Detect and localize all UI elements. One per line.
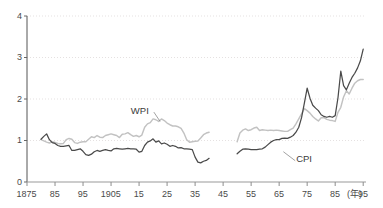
- x-tick-label: 65: [274, 190, 284, 199]
- series-wpi-line: [41, 79, 363, 143]
- y-tick-label: 4: [4, 12, 22, 21]
- y-tick-label: 3: [4, 53, 22, 62]
- x-tick-label: 15: [134, 190, 144, 199]
- x-tick-label: 55: [246, 190, 256, 199]
- chart-plot-area: [0, 0, 383, 208]
- y-tick-label: 2: [4, 95, 22, 104]
- x-tick-label: 95: [78, 190, 88, 199]
- x-tick-label: 45: [218, 190, 228, 199]
- x-tick-label: 75: [302, 190, 312, 199]
- series-cpi-line: [41, 49, 363, 163]
- series-segment: [237, 49, 363, 154]
- x-tick-label: 1875: [17, 190, 37, 199]
- x-tick-label: 1905: [101, 190, 121, 199]
- x-tick-label: 35: [190, 190, 200, 199]
- series-segment: [237, 79, 363, 141]
- annotation-leader-line: [283, 152, 295, 161]
- chart-container: 01234 187585951905152535455565758595 WPI…: [0, 0, 383, 208]
- x-tick-label: 85: [330, 190, 340, 199]
- y-tick-label: 0: [4, 178, 22, 187]
- x-axis-unit-label: (年): [347, 190, 362, 199]
- x-tick-label: 85: [50, 190, 60, 199]
- gridlines: [27, 16, 366, 141]
- series-label-wpi: WPI: [131, 106, 149, 116]
- annotation-leaders: [154, 112, 295, 161]
- x-tick-label: 25: [162, 190, 172, 199]
- y-tick-label: 1: [4, 136, 22, 145]
- series-label-cpi: CPI: [296, 154, 312, 164]
- series-segment: [41, 134, 209, 163]
- x-axis-ticks: [27, 182, 363, 186]
